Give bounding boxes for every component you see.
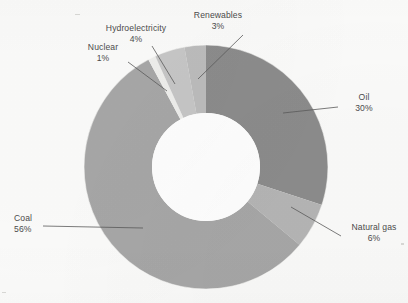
donut-chart: [0, 0, 408, 303]
donut-hole: [152, 113, 260, 221]
slice-label-renewables-name: Renewables: [194, 10, 242, 20]
slice-label-nuclear-percent: 1%: [77, 53, 129, 64]
slice-label-oil: Oil 30%: [340, 92, 388, 115]
slice-label-nuclear-name: Nuclear: [88, 42, 118, 52]
slice-label-renewables-percent: 3%: [183, 21, 253, 32]
slice-label-coal-percent: 56%: [14, 224, 66, 235]
slice-label-nuclear: Nuclear 1%: [77, 42, 129, 65]
scan-speck: [75, 14, 80, 15]
scan-speck: [401, 243, 404, 245]
slice-label-natural-gas-name: Natural gas: [351, 222, 396, 232]
slice-label-natural-gas-percent: 6%: [343, 233, 405, 244]
slice-label-coal-name: Coal: [14, 213, 32, 223]
scan-speck: [2, 292, 6, 293]
slice-label-oil-name: Oil: [359, 92, 370, 102]
chart-page: Renewables 3% Hydroelectricity 4% Nuclea…: [0, 0, 408, 303]
slice-label-coal: Coal 56%: [14, 213, 66, 236]
slice-label-hydroelectricity-name: Hydroelectricity: [106, 23, 166, 33]
slice-label-natural-gas: Natural gas 6%: [343, 222, 405, 245]
slice-label-oil-percent: 30%: [340, 103, 388, 114]
slice-label-renewables: Renewables 3%: [183, 10, 253, 33]
